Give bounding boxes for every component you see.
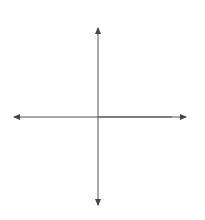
coordinate-plane (0, 0, 205, 220)
axes (14, 28, 186, 205)
